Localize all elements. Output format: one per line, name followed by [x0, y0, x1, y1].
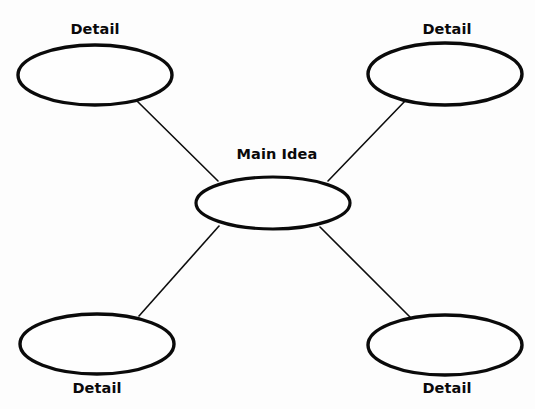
detail-ellipse-bottom-left[interactable] — [20, 314, 174, 374]
concept-map-diagram: Detail Detail Detail Detail Main Idea — [0, 0, 535, 409]
detail-label-bottom-left: Detail — [72, 380, 121, 396]
connector-line-bottom-left — [139, 226, 219, 316]
connector-line-top-right — [328, 100, 406, 181]
detail-label-bottom-right: Detail — [422, 380, 471, 396]
main-idea-ellipse[interactable] — [196, 177, 350, 229]
detail-ellipse-bottom-right[interactable] — [368, 315, 522, 375]
connector-line-bottom-right — [320, 227, 410, 317]
detail-ellipse-top-left[interactable] — [18, 45, 172, 105]
detail-label-top-left: Detail — [70, 21, 119, 37]
diagram-canvas: Detail Detail Detail Detail Main Idea — [0, 0, 535, 409]
detail-label-top-right: Detail — [422, 21, 471, 37]
detail-ellipse-top-right[interactable] — [368, 43, 522, 105]
connector-line-top-left — [136, 100, 218, 181]
main-idea-label: Main Idea — [237, 146, 318, 162]
